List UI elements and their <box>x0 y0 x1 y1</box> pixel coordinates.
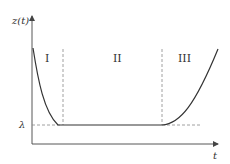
y-axis-label: z(t) <box>12 16 29 26</box>
region-label-1: I <box>45 53 49 64</box>
x-axis-label: t <box>213 151 217 161</box>
lambda-label: λ <box>19 120 25 130</box>
bathtub-curve-diagram <box>0 0 230 164</box>
region-label-3: III <box>178 53 191 64</box>
region-label-2: II <box>113 53 122 64</box>
